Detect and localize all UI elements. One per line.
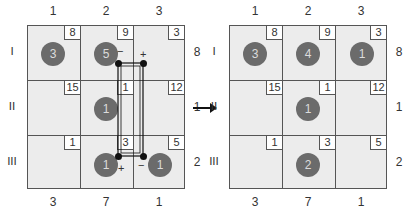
row-label: II	[5, 100, 19, 113]
demand-value: 1	[133, 195, 185, 209]
cell-r3-c2: 3 2	[282, 135, 336, 189]
cell-r1-c1: 8 3	[229, 25, 283, 81]
allocation-circle: 3	[243, 42, 267, 66]
path-corner-dot	[140, 153, 147, 160]
path-corner-dot	[140, 60, 147, 67]
allocation-circle: 2	[296, 153, 320, 177]
cost-box: 8	[266, 25, 283, 40]
allocation-circle: 1	[350, 42, 374, 66]
left-tableau: 1 2 3 I II III 8 3 9 5 − 3 + 15 1 1 12 1…	[27, 25, 185, 189]
supply-value: 1	[392, 100, 406, 114]
right-tableau: 1 2 3 I II III 8 3 9 4 3 1 15 1 1 12 1 3…	[229, 25, 387, 189]
cell-r1-c2: 9 4	[282, 25, 336, 81]
column-label: 2	[80, 4, 132, 18]
cell-r2-c2: 1 1	[282, 80, 336, 136]
cost-box: 1	[266, 135, 283, 150]
cost-box: 3	[319, 135, 336, 150]
supply-value: 8	[190, 45, 204, 59]
row-label: III	[5, 155, 19, 168]
cell-r1-c3: 3 1	[335, 25, 387, 81]
supply-value: 8	[392, 45, 406, 59]
cost-box: 15	[266, 80, 283, 95]
cell-r3-c1: 1	[229, 135, 283, 189]
cell-r2-c1: 15	[229, 80, 283, 136]
row-label: I	[5, 45, 19, 58]
cost-box: 12	[370, 80, 387, 95]
stepping-stone-path	[27, 25, 185, 189]
cost-box: 9	[319, 25, 336, 40]
column-label: 3	[133, 4, 185, 18]
supply-value: 2	[190, 155, 204, 169]
column-label: 1	[229, 4, 281, 18]
path-corner-dot	[115, 153, 122, 160]
supply-value: 2	[392, 155, 406, 169]
cell-r3-c3: 5	[335, 135, 387, 189]
demand-value: 3	[27, 195, 79, 209]
column-label: 2	[282, 4, 334, 18]
demand-value: 1	[335, 195, 387, 209]
column-label: 3	[335, 4, 387, 18]
cost-box: 1	[319, 80, 336, 95]
allocation-circle: 4	[296, 42, 320, 66]
row-label: III	[207, 155, 221, 168]
allocation-circle: 1	[296, 97, 320, 121]
demand-value: 3	[229, 195, 281, 209]
column-label: 1	[27, 4, 79, 18]
demand-value: 7	[282, 195, 334, 209]
row-label: I	[207, 45, 221, 58]
cost-box: 5	[370, 135, 387, 150]
path-corner-dot	[115, 60, 122, 67]
cell-r2-c3: 12	[335, 80, 387, 136]
cost-box: 3	[370, 25, 387, 40]
demand-value: 7	[80, 195, 132, 209]
row-label: II	[207, 100, 221, 113]
